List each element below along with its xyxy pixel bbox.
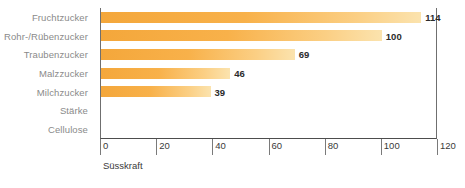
category-label: Traubenzucker xyxy=(0,45,94,64)
bar-row: 69 xyxy=(101,45,436,64)
tick-mark xyxy=(381,139,382,155)
tick-label: 120 xyxy=(440,140,456,151)
tick-mark xyxy=(212,139,213,155)
x-axis-title: Süsskraft xyxy=(103,160,143,171)
category-label: Stärke xyxy=(0,102,94,121)
bar-value-label: 46 xyxy=(234,68,245,79)
category-label: Rohr-/Rübenzucker xyxy=(0,27,94,46)
x-axis-ticks: 020406080100120 xyxy=(100,139,438,159)
bar[interactable]: 100 xyxy=(101,30,382,41)
bar[interactable]: 114 xyxy=(101,12,421,23)
bar-series: 114 100 69 46 39 xyxy=(101,8,436,138)
bar[interactable]: 39 xyxy=(101,86,211,97)
bar-row xyxy=(101,119,436,138)
tick-mark xyxy=(325,139,326,155)
bar[interactable]: 46 xyxy=(101,68,230,79)
tick-label: 20 xyxy=(159,140,170,151)
tick-mark xyxy=(437,139,438,155)
tick-label: 100 xyxy=(384,140,400,151)
category-label: Malzzucker xyxy=(0,64,94,83)
bar-value-label: 69 xyxy=(299,49,310,60)
bar-value-label: 100 xyxy=(386,30,402,41)
tick-label: 0 xyxy=(103,140,108,151)
bar-row: 100 xyxy=(101,27,436,46)
bar-value-label: 39 xyxy=(215,86,226,97)
tick-label: 60 xyxy=(272,140,283,151)
bar-row: 39 xyxy=(101,82,436,101)
category-label: Fruchtzucker xyxy=(0,8,94,27)
tick-mark xyxy=(100,139,101,155)
bar-value-label: 114 xyxy=(425,12,440,23)
tick-mark xyxy=(269,139,270,155)
bar-row: 114 xyxy=(101,8,436,27)
plot-area: 114 100 69 46 39 xyxy=(100,8,437,139)
tick-mark xyxy=(156,139,157,155)
bar-row: 46 xyxy=(101,64,436,83)
category-axis-labels: Fruchtzucker Rohr-/Rübenzucker Traubenzu… xyxy=(0,8,94,139)
category-label: Milchzucker xyxy=(0,83,94,102)
tick-label: 40 xyxy=(215,140,226,151)
bar-chart: Fruchtzucker Rohr-/Rübenzucker Traubenzu… xyxy=(0,0,465,188)
bar[interactable]: 69 xyxy=(101,49,295,60)
tick-label: 80 xyxy=(328,140,339,151)
bar-row xyxy=(101,101,436,120)
category-label: Cellulose xyxy=(0,120,94,139)
